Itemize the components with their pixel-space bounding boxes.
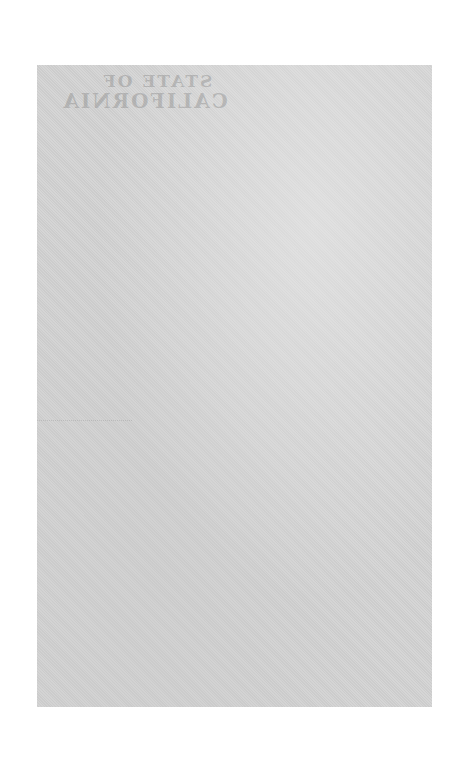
document-page: STATE OF CALIFORNIA xyxy=(37,65,432,707)
faint-mark xyxy=(37,420,132,421)
bleed-through-text-line1: STATE OF xyxy=(77,71,237,91)
bleed-through-text-line2: CALIFORNIA xyxy=(57,89,232,113)
